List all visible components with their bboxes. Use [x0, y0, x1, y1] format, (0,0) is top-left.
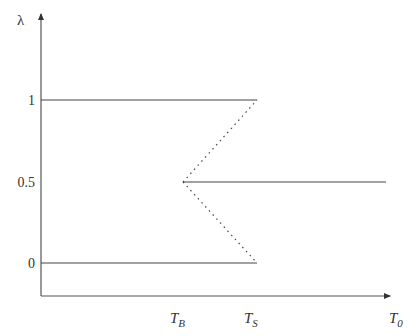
upper-dotted-connector	[183, 100, 257, 182]
y-axis-label: λ	[17, 12, 25, 28]
y-tick-0: 0	[28, 256, 35, 271]
bifurcation-diagram: λ 1 0.5 0 TB TS T0	[0, 0, 416, 336]
x-tick-TB: TB	[170, 310, 185, 329]
y-tick-0-5: 0.5	[18, 175, 36, 190]
lower-dotted-connector	[183, 182, 257, 263]
x-tick-TS: TS	[244, 310, 258, 329]
x-axis-label: T0	[389, 310, 403, 329]
y-tick-1: 1	[28, 93, 35, 108]
